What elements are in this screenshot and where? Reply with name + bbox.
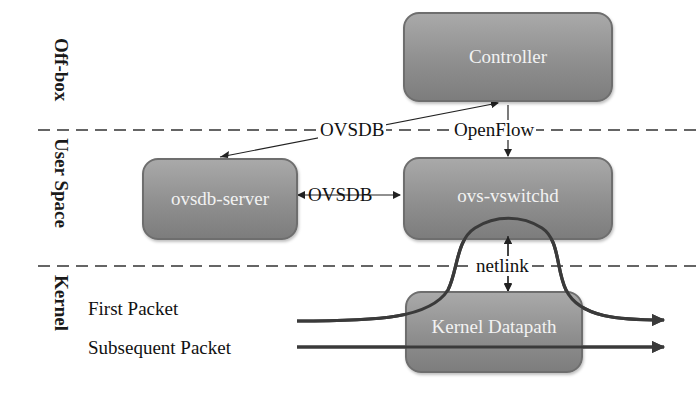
- ovsdb-server-label: ovsdb-server: [171, 188, 269, 210]
- edge-label-netlink: netlink: [474, 256, 531, 276]
- edge-label-ovsdb-local: OVSDB: [306, 185, 374, 205]
- edge-label-openflow: OpenFlow: [452, 120, 536, 140]
- subsequent-packet-label: Subsequent Packet: [88, 337, 231, 359]
- kernel-datapath-node: Kernel Datapath: [405, 291, 583, 373]
- ovsdb-server-node: ovsdb-server: [142, 158, 298, 240]
- ovs-vswitchd-node: ovs-vswitchd: [403, 157, 613, 240]
- controller-label: Controller: [469, 46, 547, 68]
- first-packet-label: First Packet: [88, 298, 178, 320]
- controller-node: Controller: [403, 12, 613, 102]
- kernel-datapath-label: Kernel Datapath: [431, 316, 556, 338]
- region-label-kernel: Kernel: [50, 275, 72, 331]
- region-label-userspace: User Space: [50, 138, 72, 228]
- ovs-vswitchd-label: ovs-vswitchd: [457, 185, 558, 207]
- edge-label-ovsdb-controller: OVSDB: [318, 120, 386, 140]
- region-label-offbox: Off-box: [50, 38, 72, 101]
